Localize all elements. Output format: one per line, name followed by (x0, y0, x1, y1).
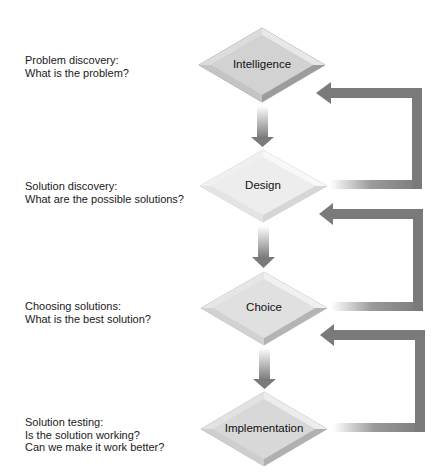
flow-diagram (0, 0, 448, 474)
node-label-implementation: Implementation (201, 422, 327, 434)
arrow-down-design-to-choice (252, 226, 275, 268)
arrow-down-intelligence-to-design (251, 106, 274, 147)
node-label-design: Design (200, 179, 326, 191)
feedback-loop-choice-to-design (319, 203, 423, 311)
feedback-loop-design-to-intelligence (316, 82, 422, 189)
node-label-intelligence: Intelligence (199, 58, 325, 70)
feedback-loop-implementation-to-choice (320, 324, 425, 432)
arrow-down-choice-to-implementation (253, 348, 276, 389)
node-label-choice: Choice (201, 301, 327, 313)
